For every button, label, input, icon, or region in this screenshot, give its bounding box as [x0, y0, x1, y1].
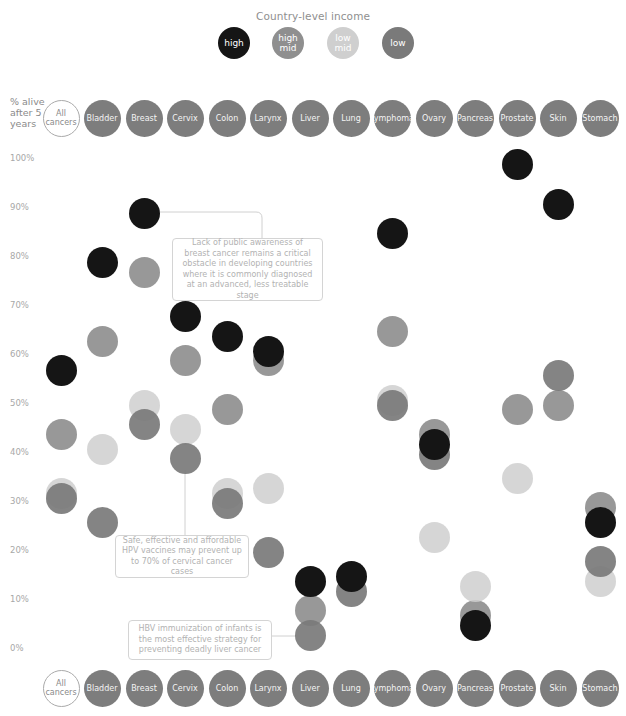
data-point-high-colon[interactable] [212, 321, 243, 352]
annotation-cervix: Safe, effective and affordable HPV vacci… [115, 535, 249, 578]
data-point-high-mid-all-cancers[interactable] [46, 419, 77, 450]
data-point-high-cervix[interactable] [170, 301, 201, 332]
data-point-low-all-cancers[interactable] [46, 483, 77, 514]
data-point-low-mid-prostate[interactable] [502, 463, 533, 494]
data-point-low-stomach[interactable] [585, 546, 616, 577]
data-point-low-bladder[interactable] [87, 507, 118, 538]
data-point-high-ovary[interactable] [419, 429, 450, 460]
data-point-high-mid-bladder[interactable] [87, 326, 118, 357]
data-point-low-cervix[interactable] [170, 443, 201, 474]
data-point-high-liver[interactable] [295, 566, 326, 597]
data-point-low-lymphoma[interactable] [377, 390, 408, 421]
data-point-low-mid-larynx[interactable] [253, 473, 284, 504]
category-bottom-colon: Colon [209, 670, 246, 707]
data-point-high-mid-skin[interactable] [543, 390, 574, 421]
data-point-low-larynx[interactable] [253, 537, 284, 568]
category-bottom-breast: Breast [126, 670, 163, 707]
data-point-low-skin[interactable] [543, 360, 574, 391]
category-bottom-skin: Skin [540, 670, 577, 707]
data-point-high-lymphoma[interactable] [377, 218, 408, 249]
category-bottom-larynx: Larynx [250, 670, 287, 707]
category-bottom-prostate: Prostate [499, 670, 536, 707]
data-point-high-skin[interactable] [543, 189, 574, 220]
data-point-high-bladder[interactable] [87, 247, 118, 278]
category-bottom-cervix: Cervix [167, 670, 204, 707]
data-point-low-mid-cervix[interactable] [170, 414, 201, 445]
data-point-high-mid-breast[interactable] [129, 257, 160, 288]
breast-connector-line [160, 212, 262, 238]
category-bottom-lung: Lung [333, 670, 370, 707]
data-point-low-mid-pancreas[interactable] [460, 571, 491, 602]
data-point-high-breast[interactable] [129, 198, 160, 229]
data-point-low-mid-bladder[interactable] [87, 434, 118, 465]
annotation-breast: Lack of public awareness of breast cance… [172, 238, 323, 301]
category-bottom-lymphoma: Lymphoma [374, 670, 411, 707]
data-point-high-mid-prostate[interactable] [502, 394, 533, 425]
data-point-high-all-cancers[interactable] [46, 355, 77, 386]
category-bottom-stomach: Stomach [582, 670, 619, 707]
data-point-high-mid-lymphoma[interactable] [377, 316, 408, 347]
data-point-low-mid-ovary[interactable] [419, 522, 450, 553]
data-point-low-breast[interactable] [129, 409, 160, 440]
category-bottom-bladder: Bladder [84, 670, 121, 707]
data-point-high-pancreas[interactable] [460, 610, 491, 641]
data-point-high-prostate[interactable] [502, 149, 533, 180]
category-bottom-ovary: Ovary [416, 670, 453, 707]
data-point-high-mid-colon[interactable] [212, 394, 243, 425]
data-point-high-lung[interactable] [336, 561, 367, 592]
data-point-low-colon[interactable] [212, 488, 243, 519]
data-point-low-liver[interactable] [295, 620, 326, 651]
data-point-high-stomach[interactable] [585, 507, 616, 538]
data-point-high-larynx[interactable] [253, 336, 284, 367]
category-bottom-all-cancers: All cancers [43, 670, 80, 707]
annotation-liver: HBV immunization of infants is the most … [128, 620, 272, 660]
data-point-high-mid-cervix[interactable] [170, 345, 201, 376]
category-bottom-pancreas: Pancreas [457, 670, 494, 707]
category-bottom-liver: Liver [292, 670, 329, 707]
